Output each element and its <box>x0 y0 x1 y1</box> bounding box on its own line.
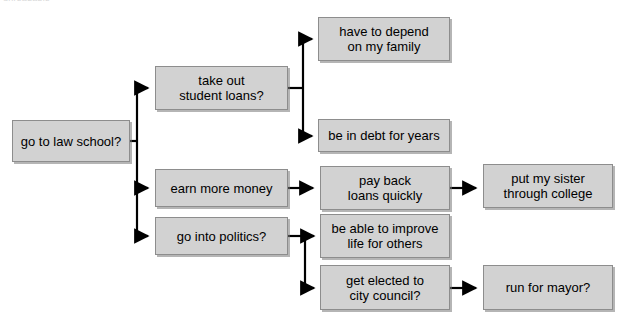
flowchart-canvas: unreadable <box>0 0 627 329</box>
node-have-to-depend-on-my-family[interactable]: have to depend on my family <box>318 17 450 61</box>
node-get-elected-to-city-council[interactable]: get elected to city council? <box>320 265 450 310</box>
node-go-into-politics[interactable]: go into politics? <box>155 217 288 255</box>
node-earn-more-money[interactable]: earn more money <box>155 169 288 207</box>
node-go-to-law-school[interactable]: go to law school? <box>12 120 130 162</box>
node-run-for-mayor[interactable]: run for mayor? <box>483 265 613 310</box>
node-be-able-to-improve-life-for-others[interactable]: be able to improve life for others <box>320 214 450 258</box>
node-be-in-debt-for-years[interactable]: be in debt for years <box>318 119 450 152</box>
node-put-my-sister-through-college[interactable]: put my sister through college <box>483 164 613 208</box>
node-pay-back-loans-quickly[interactable]: pay back loans quickly <box>320 166 450 210</box>
node-take-out-student-loans[interactable]: take out student loans? <box>155 66 288 110</box>
